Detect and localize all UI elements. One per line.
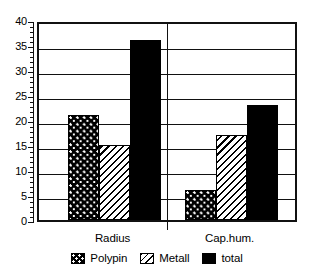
y-tick-minor-37: [30, 37, 34, 38]
y-tick-minor-7: [30, 187, 34, 188]
y-axis-label-text: 0: [1, 216, 27, 227]
category-group-separator: [167, 22, 168, 230]
y-axis-label-text: 5: [1, 191, 27, 202]
y-tick-major-15: [28, 147, 34, 148]
y-tick-minor-32: [30, 62, 34, 63]
y-tick-major-30: [28, 72, 34, 73]
legend-label-metall: Metall: [159, 252, 189, 264]
bar-caphum-total: [247, 105, 278, 220]
y-tick-minor-3: [30, 207, 34, 208]
y-tick-minor-26: [30, 92, 34, 93]
y-tick-minor-6: [30, 192, 34, 193]
y-tick-minor-31: [30, 67, 34, 68]
bar-caphum-polypin: [185, 190, 216, 220]
y-axis-label-text: 40: [1, 16, 27, 27]
legend-item-total: total: [202, 252, 242, 264]
y-tick-minor-8: [30, 182, 34, 183]
legend-label-polypin: Polypin: [90, 252, 127, 264]
legend-label-total: total: [221, 252, 242, 264]
y-tick-minor-14: [30, 152, 34, 153]
y-tick-minor-13: [30, 157, 34, 158]
y-tick-minor-22: [30, 112, 34, 113]
y-tick-major-40: [28, 22, 34, 23]
category-label-caphum: Cap.hum.: [185, 232, 275, 244]
y-tick-minor-38: [30, 32, 34, 33]
category-label-radius: Radius: [68, 232, 158, 244]
y-tick-minor-16: [30, 142, 34, 143]
y-tick-major-35: [28, 47, 34, 48]
y-axis-label-text: 15: [1, 141, 27, 152]
y-tick-major-25: [28, 97, 34, 98]
y-axis-label-text: 30: [1, 66, 27, 77]
y-tick-minor-27: [30, 87, 34, 88]
bar-caphum-metall: [216, 135, 247, 220]
y-tick-minor-9: [30, 177, 34, 178]
y-tick-major-20: [28, 122, 34, 123]
y-tick-major-0: [28, 222, 34, 223]
y-tick-minor-11: [30, 167, 34, 168]
y-tick-minor-28: [30, 82, 34, 83]
y-tick-minor-39: [30, 27, 34, 28]
y-tick-minor-19: [30, 127, 34, 128]
bar-radius-total: [130, 40, 161, 220]
legend-item-polypin: Polypin: [71, 252, 127, 264]
y-tick-minor-12: [30, 162, 34, 163]
chart-legend: Polypin Metall total: [0, 252, 314, 264]
y-tick-minor-4: [30, 202, 34, 203]
y-tick-minor-23: [30, 107, 34, 108]
legend-item-metall: Metall: [140, 252, 189, 264]
bar-chart: 0510152025303540 RadiusCap.hum. Polypin …: [0, 0, 314, 277]
y-tick-minor-21: [30, 117, 34, 118]
y-tick-minor-36: [30, 42, 34, 43]
bar-radius-polypin: [68, 115, 99, 220]
y-axis-label-text: 20: [1, 116, 27, 127]
hatched-swatch-icon: [140, 253, 154, 264]
y-tick-minor-18: [30, 132, 34, 133]
y-tick-minor-17: [30, 137, 34, 138]
bar-radius-metall: [99, 145, 130, 220]
y-tick-minor-29: [30, 77, 34, 78]
y-axis-label-text: 10: [1, 166, 27, 177]
y-axis-label-text: 25: [1, 91, 27, 102]
y-tick-minor-24: [30, 102, 34, 103]
y-tick-major-5: [28, 197, 34, 198]
solid-swatch-icon: [202, 253, 216, 264]
y-tick-minor-1: [30, 217, 34, 218]
y-tick-minor-2: [30, 212, 34, 213]
y-tick-minor-33: [30, 57, 34, 58]
dotted-swatch-icon: [71, 253, 85, 264]
y-tick-major-10: [28, 172, 34, 173]
y-tick-minor-34: [30, 52, 34, 53]
y-axis-label-text: 35: [1, 41, 27, 52]
